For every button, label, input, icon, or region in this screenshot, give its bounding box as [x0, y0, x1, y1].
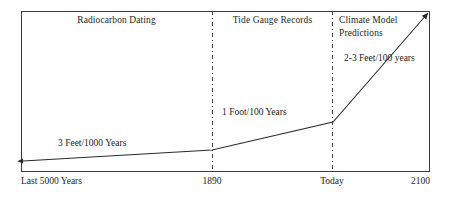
era-label-radiocarbon-dating: Radiocarbon Dating — [21, 14, 212, 27]
era-label-tide-gauge-records: Tide Gauge Records — [213, 14, 332, 27]
divider-1890 — [212, 11, 213, 172]
axis-tick-1890: 1890 — [203, 175, 222, 187]
axis-tick-2100: 2100 — [411, 175, 430, 187]
rate-label-3-feet-per-1000-years: 3 Feet/1000 Years — [58, 137, 126, 149]
rate-label-2-3-feet-per-100-years: 2-3 Feet/100 years — [344, 52, 415, 64]
rate-label-1-foot-per-100-years: 1 Foot/100 Years — [222, 106, 287, 118]
sea-level-rise-figure: Radiocarbon Dating Tide Gauge Records Cl… — [0, 0, 457, 197]
era-label-climate-model-predictions: Climate Model Predictions — [339, 14, 431, 39]
axis-tick-last-5000-years: Last 5000 Years — [21, 175, 82, 187]
axis-tick-today: Today — [320, 175, 344, 187]
divider-today — [332, 11, 333, 172]
